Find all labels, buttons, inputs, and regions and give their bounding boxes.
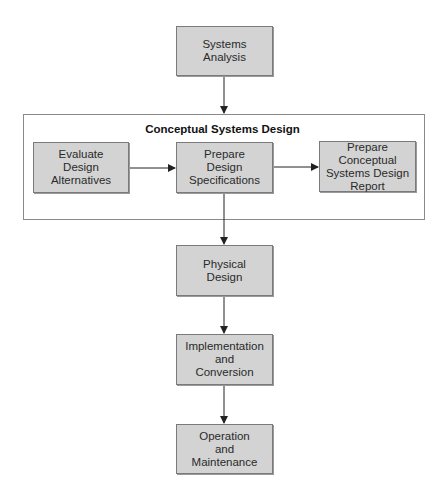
node-operation-maintenance: Operation and Maintenance <box>176 424 273 474</box>
node-prepare-design-specifications: Prepare Design Specifications <box>176 142 273 193</box>
node-systems-analysis: Systems Analysis <box>176 26 273 76</box>
node-prepare-conceptual-report: Prepare Conceptual Systems Design Report <box>319 141 416 192</box>
node-implementation-conversion: Implementation and Conversion <box>176 334 273 385</box>
node-evaluate-design-alternatives: Evaluate Design Alternatives <box>33 142 129 193</box>
node-physical-design: Physical Design <box>176 245 273 296</box>
